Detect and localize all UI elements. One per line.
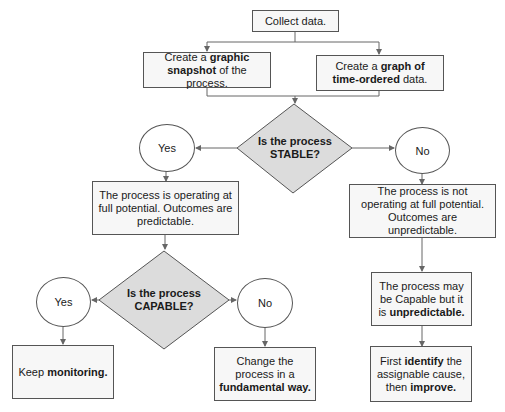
stable-no-circle: No [395, 127, 450, 174]
graphic-snapshot-label: Create a graphic snapshot of the process… [148, 51, 266, 90]
capable-no-circle: No [237, 278, 293, 328]
change-process-box: Change the process in a fundamental way. [214, 347, 316, 401]
capable-question: Is the processCAPABLE? [114, 283, 214, 317]
time-ordered-graph-label: Create a graph of time-ordered data. [321, 60, 439, 86]
collect-data-label: Collect data. [265, 15, 326, 28]
identify-improve-box: First identify the assignable cause, the… [370, 346, 472, 402]
stable-question: Is the processSTABLE? [245, 130, 345, 166]
not-full-potential-box: The process is not operating at full pot… [349, 184, 496, 238]
may-be-capable-box: The process may be Capable but it is unp… [371, 272, 472, 326]
capable-yes-circle: Yes [36, 277, 91, 327]
graphic-snapshot-box: Create a graphic snapshot of the process… [143, 52, 271, 88]
collect-data-box: Collect data. [252, 10, 339, 32]
full-potential-box: The process is operating at full potenti… [92, 181, 239, 235]
stable-yes-circle: Yes [139, 124, 195, 172]
keep-monitoring-box: Keep monitoring. [12, 345, 114, 399]
time-ordered-graph-box: Create a graph of time-ordered data. [316, 55, 444, 91]
